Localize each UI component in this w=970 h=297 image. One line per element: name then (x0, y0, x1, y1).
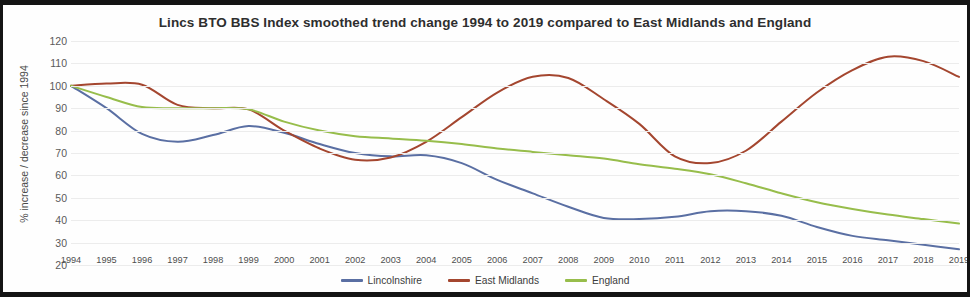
legend-label: England (592, 275, 629, 286)
gridline (71, 175, 959, 176)
y-tick-label: 100 (37, 80, 67, 92)
legend-item-england[interactable]: England (565, 275, 629, 286)
x-tick-label: 1998 (203, 255, 223, 265)
x-tick-label: 2011 (665, 255, 685, 265)
gridline (71, 220, 959, 221)
gridline (71, 243, 959, 244)
x-tick-label: 1997 (167, 255, 187, 265)
x-tick-label: 2005 (451, 255, 471, 265)
x-tick-label: 2014 (771, 255, 791, 265)
y-tick-label: 90 (37, 102, 67, 114)
x-tick-label: 1995 (96, 255, 116, 265)
x-tick-label: 2015 (807, 255, 827, 265)
gridline (71, 153, 959, 154)
gridline (71, 131, 959, 132)
legend-item-east-midlands[interactable]: East Midlands (448, 275, 539, 286)
gridline (71, 86, 959, 87)
x-tick-label: 2000 (274, 255, 294, 265)
x-tick-label: 1996 (132, 255, 152, 265)
y-tick-label: 40 (37, 214, 67, 226)
x-tick-label: 2018 (913, 255, 933, 265)
legend-swatch-icon (565, 279, 587, 281)
x-tick-label: 1994 (61, 255, 81, 265)
x-tick-label: 2009 (594, 255, 614, 265)
x-tick-label: 2002 (345, 255, 365, 265)
x-tick-label: 2001 (309, 255, 329, 265)
x-tick-label: 2012 (700, 255, 720, 265)
y-tick-label: 120 (37, 35, 67, 47)
x-tick-label: 2006 (487, 255, 507, 265)
y-tick-label: 110 (37, 57, 67, 69)
gridline (71, 265, 959, 266)
chart-figure: Lincs BTO BBS Index smoothed trend chang… (0, 0, 970, 297)
gridline (71, 108, 959, 109)
chart-title: Lincs BTO BBS Index smoothed trend chang… (3, 15, 967, 30)
y-tick-label: 30 (37, 237, 67, 249)
x-tick-label: 2010 (629, 255, 649, 265)
x-tick-label: 2007 (523, 255, 543, 265)
legend-label: Lincolnshire (368, 275, 422, 286)
series-line-england (71, 86, 959, 224)
x-tick-label: 2008 (558, 255, 578, 265)
x-tick-label: 2017 (878, 255, 898, 265)
legend-swatch-icon (341, 279, 363, 281)
x-tick-label: 2003 (380, 255, 400, 265)
y-tick-label: 80 (37, 125, 67, 137)
legend-swatch-icon (448, 279, 470, 281)
legend-item-lincolnshire[interactable]: Lincolnshire (341, 275, 422, 286)
y-tick-label: 50 (37, 192, 67, 204)
y-axis-title: % increase / decrease since 1994 (18, 49, 30, 239)
chart-canvas: Lincs BTO BBS Index smoothed trend chang… (3, 5, 967, 292)
x-tick-label: 2004 (416, 255, 436, 265)
x-tick-label: 2019 (949, 255, 969, 265)
x-tick-label: 1999 (238, 255, 258, 265)
series-line-lincolnshire (71, 86, 959, 250)
y-tick-label: 60 (37, 169, 67, 181)
x-tick-label: 2013 (736, 255, 756, 265)
plot-area (71, 41, 959, 265)
legend-label: East Midlands (475, 275, 539, 286)
series-line-east-midlands (71, 56, 959, 163)
gridline (71, 41, 959, 42)
gridline (71, 198, 959, 199)
x-tick-label: 2016 (842, 255, 862, 265)
y-tick-label: 70 (37, 147, 67, 159)
y-axis-ticks: 1201101009080706050403020 (31, 5, 67, 292)
gridline (71, 63, 959, 64)
chart-legend: LincolnshireEast MidlandsEngland (3, 275, 967, 286)
